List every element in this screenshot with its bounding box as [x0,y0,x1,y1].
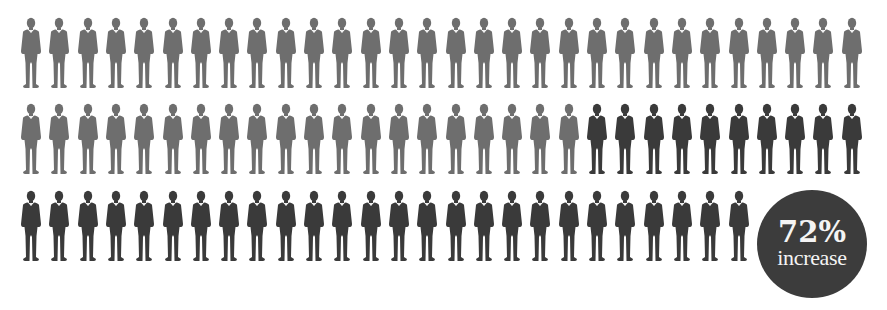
businessman-icon-baseline [19,103,43,175]
businessman-icon-increase [727,190,751,262]
businessman-icon-baseline [47,17,71,89]
businessman-icon-baseline [557,103,581,175]
businessman-icon-increase [642,190,666,262]
businessman-icon-increase [698,103,722,175]
businessman-icon-baseline [217,17,241,89]
businessman-icon-baseline [245,17,269,89]
increase-badge: 72% increase [757,190,867,298]
pictogram-chart [0,0,887,310]
businessman-icon-increase [217,190,241,262]
businessman-icon-increase [132,190,156,262]
businessman-icon-baseline [472,103,496,175]
businessman-icon-baseline [274,17,298,89]
businessman-icon-baseline [161,103,185,175]
businessman-icon-baseline [415,103,439,175]
businessman-icon-baseline [76,17,100,89]
businessman-icon-baseline [302,103,326,175]
businessman-icon-increase [245,190,269,262]
businessman-icon-baseline [557,17,581,89]
businessman-icon-baseline [415,17,439,89]
businessman-icon-baseline [19,17,43,89]
businessman-icon-baseline [330,103,354,175]
businessman-icon-increase [755,103,779,175]
businessman-icon-increase [500,190,524,262]
businessman-icon-baseline [755,17,779,89]
businessman-icon-baseline [444,103,468,175]
businessman-icon-increase [444,190,468,262]
businessman-icon-baseline [132,103,156,175]
businessman-icon-baseline [189,17,213,89]
businessman-icon-baseline [76,103,100,175]
businessman-icon-baseline [811,17,835,89]
businessman-icon-baseline [359,103,383,175]
businessman-icon-increase [472,190,496,262]
businessman-icon-increase [613,190,637,262]
businessman-icon-increase [783,103,807,175]
businessman-icon-baseline [387,17,411,89]
businessman-icon-increase [19,190,43,262]
businessman-icon-increase [585,190,609,262]
businessman-icon-increase [76,190,100,262]
businessman-icon-increase [698,190,722,262]
businessman-icon-baseline [472,17,496,89]
businessman-icon-baseline [330,17,354,89]
businessman-icon-baseline [274,103,298,175]
businessman-icon-increase [387,190,411,262]
businessman-icon-baseline [528,17,552,89]
businessman-icon-increase [104,190,128,262]
businessman-icon-baseline [245,103,269,175]
businessman-icon-increase [642,103,666,175]
businessman-icon-baseline [670,17,694,89]
businessman-icon-baseline [217,103,241,175]
businessman-icon-increase [302,190,326,262]
businessman-icon-increase [528,190,552,262]
businessman-icon-baseline [104,17,128,89]
businessman-icon-baseline [698,17,722,89]
businessman-icon-baseline [613,17,637,89]
businessman-icon-baseline [727,17,751,89]
businessman-icon-increase [840,103,864,175]
businessman-icon-baseline [132,17,156,89]
businessman-icon-increase [613,103,637,175]
businessman-icon-increase [727,103,751,175]
businessman-icon-baseline [528,103,552,175]
businessman-icon-increase [359,190,383,262]
businessman-icon-increase [811,103,835,175]
businessman-icon-increase [670,190,694,262]
businessman-icon-baseline [189,103,213,175]
businessman-icon-increase [557,190,581,262]
businessman-icon-baseline [642,17,666,89]
businessman-icon-baseline [444,17,468,89]
businessman-icon-baseline [302,17,326,89]
businessman-icon-increase [670,103,694,175]
businessman-icon-increase [585,103,609,175]
badge-percent: 72% [778,217,846,247]
businessman-icon-baseline [840,17,864,89]
businessman-icon-baseline [500,103,524,175]
businessman-icon-increase [330,190,354,262]
businessman-icon-baseline [500,17,524,89]
businessman-icon-increase [189,190,213,262]
businessman-icon-increase [161,190,185,262]
businessman-icon-baseline [47,103,71,175]
businessman-icon-increase [415,190,439,262]
businessman-icon-baseline [783,17,807,89]
businessman-icon-baseline [359,17,383,89]
businessman-icon-baseline [585,17,609,89]
businessman-icon-baseline [161,17,185,89]
businessman-icon-increase [274,190,298,262]
badge-label: increase [777,247,847,269]
businessman-icon-baseline [387,103,411,175]
businessman-icon-increase [47,190,71,262]
businessman-icon-baseline [104,103,128,175]
